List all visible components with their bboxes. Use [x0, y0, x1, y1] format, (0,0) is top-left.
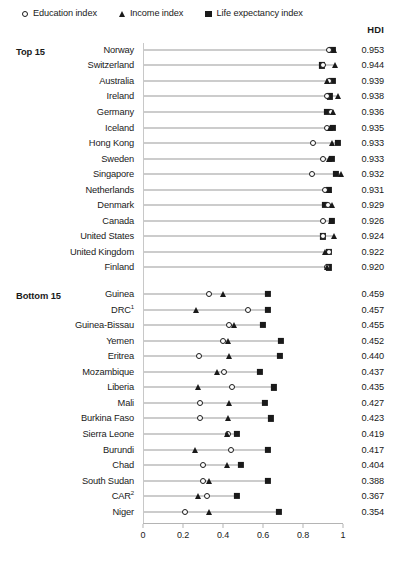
income-index-point	[331, 233, 337, 239]
chart-row: CAR20.367	[0, 488, 398, 504]
country-label: Yemen	[0, 336, 134, 346]
hdi-value: 0.935	[350, 123, 384, 133]
hdi-value: 0.354	[350, 507, 384, 517]
x-axis-tick	[183, 524, 184, 528]
hdi-value: 0.938	[350, 91, 384, 101]
section-label-bottom-15: Bottom 15	[16, 290, 61, 301]
hdi-value: 0.457	[350, 305, 384, 315]
country-label: Australia	[0, 76, 134, 86]
education-index-point	[197, 400, 203, 406]
income-index-point	[224, 431, 230, 437]
income-index-point	[335, 93, 341, 99]
row-plot-area	[143, 411, 343, 427]
row-plot-area	[143, 348, 343, 364]
hdi-value: 0.936	[350, 107, 384, 117]
education-index-point	[200, 462, 206, 468]
country-label: Iceland	[0, 123, 134, 133]
square-marker-icon	[205, 11, 211, 17]
row-connector-line	[143, 449, 268, 450]
country-label: DRC1	[0, 305, 134, 315]
footnote-marker: 1	[131, 304, 134, 310]
income-index-point	[326, 187, 332, 193]
life-expectancy-index-point	[265, 307, 271, 313]
legend-item-circle: Education index	[22, 9, 97, 18]
life-expectancy-index-point	[335, 140, 341, 146]
row-plot-area	[143, 457, 343, 473]
income-index-point	[322, 249, 328, 255]
income-index-point	[324, 264, 330, 270]
education-index-point	[182, 509, 188, 515]
x-axis-tick	[143, 524, 144, 528]
row-plot-area	[143, 229, 343, 245]
education-index-point	[206, 291, 212, 297]
income-index-point	[331, 47, 337, 53]
chart-row: Niger0.354	[0, 504, 398, 520]
life-expectancy-index-point	[257, 369, 263, 375]
chart-row: Sweden0.933	[0, 151, 398, 167]
chart-row: Hong Kong0.933	[0, 135, 398, 151]
row-plot-area	[143, 442, 343, 458]
life-expectancy-index-point	[278, 338, 284, 344]
chart-row: Denmark0.929	[0, 198, 398, 214]
hdi-value: 0.933	[350, 138, 384, 148]
x-axis-tick	[263, 524, 264, 528]
education-index-point	[228, 447, 234, 453]
row-plot-area	[143, 426, 343, 442]
hdi-value: 0.452	[350, 336, 384, 346]
life-expectancy-index-point	[262, 400, 268, 406]
row-connector-line	[143, 418, 271, 419]
education-index-point	[320, 233, 326, 239]
income-index-point	[324, 78, 330, 84]
chart-row: Chad0.404	[0, 457, 398, 473]
country-label: Canada	[0, 216, 134, 226]
income-index-point	[231, 322, 237, 328]
row-plot-area	[143, 135, 343, 151]
chart-row: Burkina Faso0.423	[0, 411, 398, 427]
hdi-value: 0.427	[350, 398, 384, 408]
legend-label: Education index	[33, 9, 97, 18]
education-index-point	[204, 493, 210, 499]
row-connector-line	[143, 402, 265, 403]
footnote-marker: 2	[131, 490, 134, 496]
row-plot-area	[143, 58, 343, 74]
chart-row: Iceland0.935	[0, 120, 398, 136]
hdi-value: 0.388	[350, 476, 384, 486]
row-connector-line	[143, 80, 332, 81]
hdi-value: 0.440	[350, 351, 384, 361]
hdi-value: 0.932	[350, 169, 384, 179]
hdi-value: 0.437	[350, 367, 384, 377]
row-plot-area	[143, 333, 343, 349]
row-plot-area	[143, 89, 343, 105]
hdi-value: 0.933	[350, 154, 384, 164]
circle-marker-icon	[22, 11, 28, 17]
country-label: Ireland	[0, 91, 134, 101]
education-index-point	[245, 307, 251, 313]
x-axis-tick-label: 0.6	[257, 530, 269, 540]
row-connector-line	[143, 96, 338, 97]
legend-label: Life expectancy index	[217, 9, 303, 18]
education-index-point	[320, 62, 326, 68]
row-connector-line	[143, 111, 333, 112]
hdi-value: 0.939	[350, 76, 384, 86]
country-label: Niger	[0, 507, 134, 517]
row-connector-line	[143, 371, 260, 372]
chart-row: Germany0.936	[0, 104, 398, 120]
x-axis-tick-label: 0	[141, 530, 146, 540]
hdi-value: 0.924	[350, 231, 384, 241]
income-index-point	[225, 415, 231, 421]
hdi-value: 0.929	[350, 200, 384, 210]
legend-item-triangle: Income index	[119, 9, 183, 18]
country-label: Denmark	[0, 200, 134, 210]
x-axis-tick-label: 0.8	[297, 530, 309, 540]
axis-vertical-spine	[143, 43, 144, 523]
country-label: South Sudan	[0, 476, 134, 486]
row-connector-line	[143, 251, 329, 252]
chart-row: Singapore0.932	[0, 166, 398, 182]
education-index-point	[196, 353, 202, 359]
income-index-point	[226, 353, 232, 359]
chart-row: United Kingdom0.922	[0, 244, 398, 260]
income-index-point	[332, 62, 338, 68]
education-index-point	[324, 93, 330, 99]
row-connector-line	[143, 189, 329, 190]
chart-row: South Sudan0.388	[0, 473, 398, 489]
